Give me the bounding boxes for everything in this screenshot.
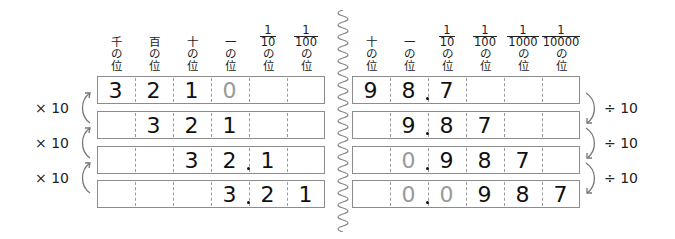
decimal-point <box>247 167 251 171</box>
column-header: 1100の位 <box>287 0 325 72</box>
curved-up-arrow-icon <box>78 160 94 196</box>
digit-cell <box>352 147 390 173</box>
digit-cell: 2 <box>173 112 211 138</box>
header-char: 位 <box>442 60 453 72</box>
digit-cell <box>287 112 325 138</box>
header-char: 位 <box>187 60 198 72</box>
digit-cell: 3 <box>211 181 249 207</box>
divide-by-10-label: ÷ 10 <box>604 170 638 186</box>
digit-cell: 0 <box>390 147 428 173</box>
decimal-point <box>247 201 251 205</box>
header-char: 位 <box>480 60 491 72</box>
column-header: 一の位 <box>211 0 249 72</box>
digit-cell <box>352 112 390 138</box>
decimal-point <box>426 132 430 136</box>
header-char: 位 <box>518 60 529 72</box>
digit-cell <box>504 77 542 103</box>
divide-by-10-label: ÷ 10 <box>604 100 638 116</box>
header-char: 位 <box>556 60 567 72</box>
digit-cell: 9 <box>466 181 504 207</box>
digit-cell: 7 <box>542 181 580 207</box>
digit-cell: 9 <box>390 112 428 138</box>
digit-cell: 1 <box>249 147 287 173</box>
digit-cell <box>249 77 287 103</box>
digit-cell: 8 <box>428 112 466 138</box>
digit-cell: 0 <box>211 77 249 103</box>
digit-cell <box>504 112 542 138</box>
column-header: 110の位 <box>428 0 466 72</box>
multiply-by-10-label: × 10 <box>35 135 69 151</box>
digit-cell <box>97 147 135 173</box>
curved-down-arrow-icon <box>583 125 599 161</box>
digit-cell: 1 <box>173 77 211 103</box>
fraction-label: 110 <box>439 24 456 48</box>
digit-cell: 8 <box>390 77 428 103</box>
digit-cell: 8 <box>466 147 504 173</box>
number-row: 321 <box>97 111 325 139</box>
digit-cell: 7 <box>428 77 466 103</box>
decimal-point <box>426 97 430 101</box>
digit-cell <box>352 181 390 207</box>
number-row: 0987 <box>352 146 580 174</box>
multiply-by-10-label: × 10 <box>35 170 69 186</box>
digit-cell <box>466 77 504 103</box>
number-row: 987 <box>352 76 580 104</box>
digit-cell <box>542 147 580 173</box>
fraction-label: 110000 <box>542 24 581 48</box>
column-header: 百の位 <box>135 0 173 72</box>
header-char: 位 <box>366 60 377 72</box>
digit-cell: 3 <box>97 77 135 103</box>
digit-cell <box>542 112 580 138</box>
header-char: 位 <box>263 60 274 72</box>
column-header: 1100の位 <box>466 0 504 72</box>
digit-cell <box>97 181 135 207</box>
digit-cell <box>135 147 173 173</box>
number-row: 3210 <box>97 76 325 104</box>
digit-cell <box>249 112 287 138</box>
multiply-by-10-label: × 10 <box>35 100 69 116</box>
divide-by-10-label: ÷ 10 <box>604 135 638 151</box>
number-row: 987 <box>352 111 580 139</box>
decimal-point <box>426 167 430 171</box>
header-char: 位 <box>225 60 236 72</box>
digit-cell: 0 <box>390 181 428 207</box>
digit-cell <box>287 77 325 103</box>
column-header: 千の位 <box>97 0 135 72</box>
digit-cell: 7 <box>504 147 542 173</box>
digit-cell: 2 <box>135 77 173 103</box>
digit-cell: 3 <box>173 147 211 173</box>
header-char: 位 <box>301 60 312 72</box>
fraction-label: 1100 <box>473 24 497 48</box>
digit-cell <box>135 181 173 207</box>
digit-cell <box>173 181 211 207</box>
column-header: 110の位 <box>249 0 287 72</box>
fraction-label: 110 <box>260 24 277 48</box>
digit-cell: 0 <box>428 181 466 207</box>
column-header: 110000の位 <box>542 0 580 72</box>
digit-cell: 1 <box>211 112 249 138</box>
digit-cell: 7 <box>466 112 504 138</box>
digit-cell: 9 <box>352 77 390 103</box>
number-row: 321 <box>97 180 325 208</box>
digit-cell: 2 <box>249 181 287 207</box>
curved-up-arrow-icon <box>78 90 94 126</box>
column-header: 11000の位 <box>504 0 542 72</box>
fraction-label: 11000 <box>507 24 538 48</box>
number-row: 321 <box>97 146 325 174</box>
number-row: 00987 <box>352 180 580 208</box>
column-header: 十の位 <box>173 0 211 72</box>
digit-cell <box>542 77 580 103</box>
digit-cell: 9 <box>428 147 466 173</box>
column-header: 十の位 <box>352 0 390 72</box>
decimal-point <box>426 201 430 205</box>
curved-down-arrow-icon <box>583 90 599 126</box>
digit-cell: 3 <box>135 112 173 138</box>
digit-cell <box>97 112 135 138</box>
curved-up-arrow-icon <box>78 125 94 161</box>
digit-cell: 1 <box>287 181 325 207</box>
digit-cell <box>287 147 325 173</box>
fraction-label: 1100 <box>294 24 318 48</box>
header-char: 位 <box>404 60 415 72</box>
curved-down-arrow-icon <box>583 160 599 196</box>
digit-cell: 2 <box>211 147 249 173</box>
